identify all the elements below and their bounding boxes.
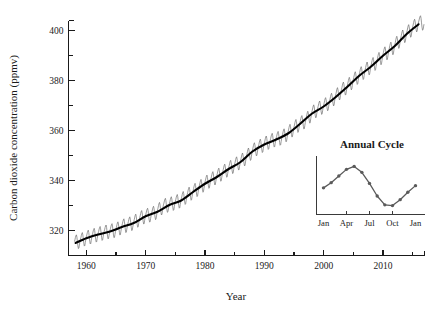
annual-cycle-point	[360, 171, 363, 174]
inset-x-ticks	[347, 211, 393, 215]
annual-cycle-point	[414, 184, 417, 187]
inset-x-tick-label: Jul	[364, 218, 375, 228]
y-tick-label: 340	[49, 176, 64, 186]
annual-cycle-point	[345, 168, 348, 171]
y-tick-label: 320	[49, 226, 64, 236]
annual-cycle-point	[329, 181, 332, 184]
annual-cycle-point	[322, 186, 325, 189]
inset-x-tick-label: Apr	[340, 218, 354, 228]
inset-x-tick-label: Jan	[410, 218, 422, 228]
x-axis-title: Year	[226, 290, 247, 302]
x-axis-ticks	[86, 250, 412, 256]
annual-cycle-point	[337, 174, 340, 177]
co2-keeling-curve-figure: 320340360380400 196019701980199020002010…	[0, 0, 442, 317]
annual-cycle-markers	[322, 165, 417, 208]
y-tick-label: 400	[49, 26, 64, 36]
inset-x-tick-label: Oct	[386, 218, 399, 228]
annual-cycle-point	[375, 194, 378, 197]
y-axis-tick-labels: 320340360380400	[49, 26, 64, 236]
x-tick-label: 1980	[195, 261, 214, 271]
y-axis-ticks	[69, 31, 75, 231]
y-tick-label: 380	[49, 76, 64, 86]
inset-x-tick-labels: JanAprJulOctJan	[318, 218, 422, 228]
annual-cycle-inset: Annual Cycle JanAprJulOctJan	[317, 138, 425, 228]
annual-cycle-point	[406, 191, 409, 194]
annual-cycle-point	[391, 204, 394, 207]
y-tick-label: 360	[49, 126, 64, 136]
chart-canvas: 320340360380400 196019701980199020002010…	[0, 0, 442, 317]
annual-cycle-point	[383, 203, 386, 206]
x-tick-label: 1970	[136, 261, 155, 271]
inset-title: Annual Cycle	[340, 138, 404, 150]
x-tick-label: 1960	[77, 261, 96, 271]
x-tick-label: 2000	[314, 261, 333, 271]
annual-cycle-point	[368, 182, 371, 185]
annual-cycle-point	[352, 165, 355, 168]
y-axis-title: Carbon dioxide concentration (ppmv)	[7, 55, 20, 221]
co2-monthly-sawtooth-series	[74, 16, 424, 249]
co2-smoothed-trend-series	[76, 24, 419, 243]
x-axis-tick-labels: 196019701980199020002010	[77, 261, 393, 271]
inset-x-tick-label: Jan	[318, 218, 330, 228]
annual-cycle-point	[398, 198, 401, 201]
x-tick-label: 2010	[373, 261, 392, 271]
x-tick-label: 1990	[255, 261, 274, 271]
